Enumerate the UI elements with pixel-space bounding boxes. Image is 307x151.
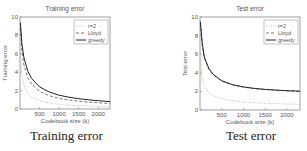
test-legend-label: greedy (278, 37, 295, 43)
training-ytick-label: 0 (15, 106, 19, 112)
test-error-caption: Test error (226, 128, 276, 144)
training-error-caption: Training error (30, 128, 103, 144)
training-ytick-label: 10 (11, 14, 18, 20)
training-title: Training error (46, 5, 86, 13)
test-ytick-label: 2 (195, 88, 199, 94)
training-xtick-label: 1500 (72, 111, 86, 117)
test-title: Test error (236, 5, 264, 12)
training-xtick-label: 500 (35, 111, 46, 117)
training-xtick-label: 1000 (52, 111, 66, 117)
training-ylabel: Training error (2, 45, 8, 81)
test-ylabel: Test error (182, 51, 188, 76)
training-xtick-label: 2000 (92, 111, 106, 117)
test-xtick-label: 1000 (237, 112, 251, 118)
training-legend-label: greedy (88, 37, 105, 43)
training-ytick-label: 4 (15, 69, 19, 75)
test-ytick-label: 8 (195, 33, 199, 39)
test-legend-label: Lloyd (278, 30, 291, 36)
training-ytick-label: 2 (15, 88, 19, 94)
test-legend-label: r=2 (278, 23, 286, 29)
training-legend-label: r=2 (88, 23, 96, 29)
test-ytick-label: 4 (195, 70, 199, 76)
test-ytick-label: 6 (195, 51, 199, 57)
test-xtick-label: 1500 (259, 112, 273, 118)
training-ytick-label: 8 (15, 32, 19, 38)
training-xlabel: Codebook size (k) (41, 118, 89, 124)
test-xtick-label: 500 (217, 112, 228, 118)
test-ytick-label: 0 (195, 107, 199, 113)
training-ytick-label: 6 (15, 51, 19, 57)
training-legend-label: Lloyd (88, 30, 101, 36)
test-xlabel: Codebook size (k) (226, 119, 274, 125)
test-ytick-label: 10 (191, 14, 198, 20)
test-xtick-label: 2000 (280, 112, 294, 118)
